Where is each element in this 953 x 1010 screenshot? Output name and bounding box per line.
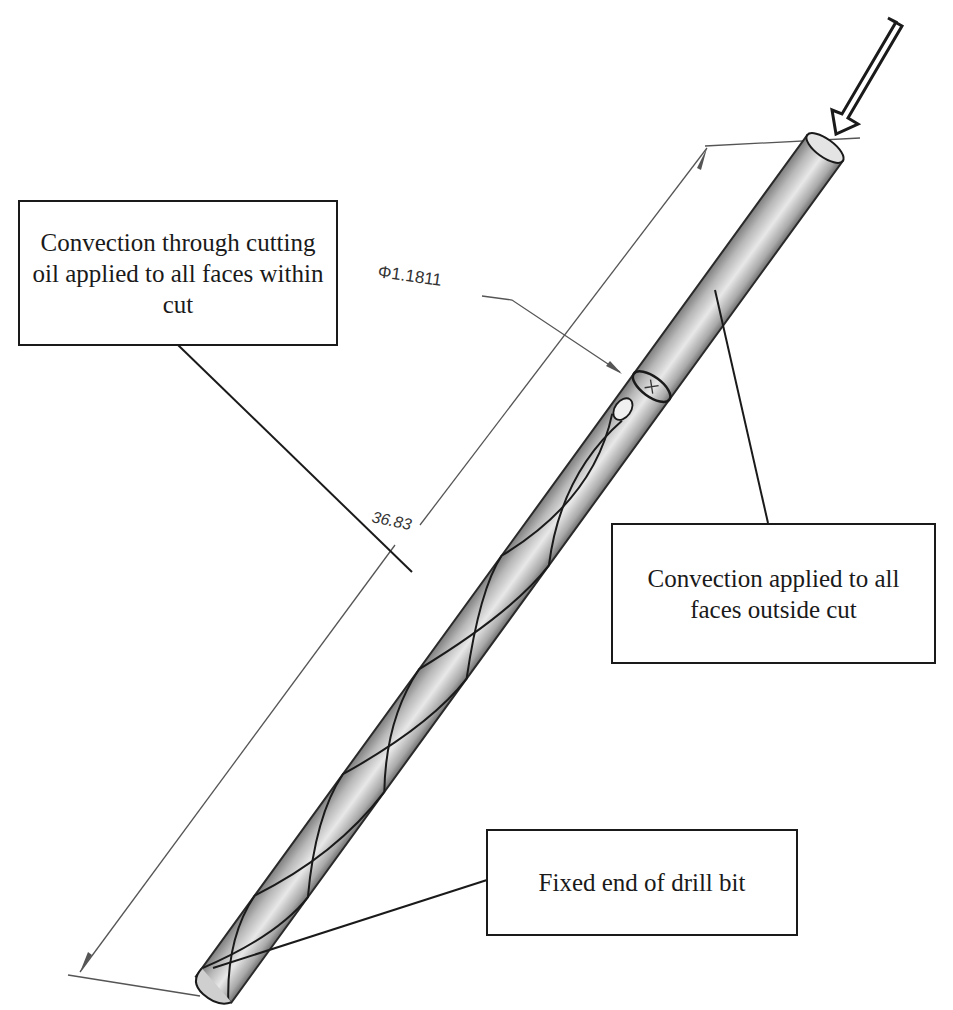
extension-line-top <box>705 138 860 146</box>
drill-bit-diagram: Φ1.1811 36.83 Convection through cutting… <box>0 0 953 1010</box>
callout-outside-cut-text: Convection applied to all faces outside … <box>621 563 926 625</box>
callout-fixed-end-text: Fixed end of drill bit <box>539 867 746 898</box>
diameter-leader <box>482 296 620 372</box>
drawing-layer <box>0 0 953 1010</box>
dimension-line-lower <box>80 545 395 972</box>
callout-fixed-end: Fixed end of drill bit <box>486 829 798 936</box>
dimension-arrowhead-bottom <box>80 952 92 972</box>
load-arrow <box>832 18 902 134</box>
callout-within-cut-text: Convection through cutting oil applied t… <box>28 227 328 320</box>
leader-outside-cut <box>715 290 768 523</box>
callout-within-cut: Convection through cutting oil applied t… <box>18 200 338 346</box>
load-arrow-icon <box>832 18 902 134</box>
extension-line-bottom <box>68 975 200 996</box>
diameter-dimension <box>482 296 622 374</box>
leader-within-cut <box>178 345 412 572</box>
diameter-arrowhead <box>606 361 622 374</box>
callout-outside-cut: Convection applied to all faces outside … <box>611 523 936 664</box>
